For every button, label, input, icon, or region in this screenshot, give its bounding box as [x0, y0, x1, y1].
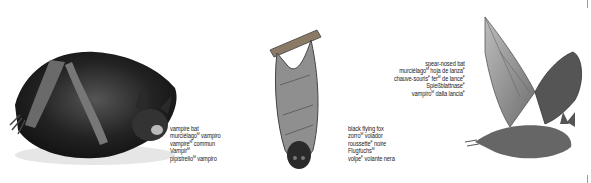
caption-line-es: murciélagoM vampiro [170, 132, 221, 139]
flying-fox-illustration [255, 25, 345, 180]
caption-line-de: SpießblattnaseF [394, 82, 465, 89]
caption-line-en: black flying fox [348, 125, 395, 132]
caption-line-es: murciélagoM hoja de lanzaF [394, 67, 465, 74]
crop-mark-bottom [587, 175, 588, 183]
caption-line-it: pipistrelloM vampiro [170, 155, 221, 162]
crop-mark-top [587, 0, 588, 8]
caption-line-it: vampiroM dalla lanciaF [394, 90, 465, 97]
spear-nosed-bat-caption: spear-nosed bat murciélagoM hoja de lanz… [394, 60, 465, 97]
caption-line-de: VampirM [170, 147, 221, 154]
caption-line-es: zorroM volador [348, 132, 395, 139]
vampire-bat-illustration [0, 30, 190, 180]
vampire-bat-caption: vampire bat murciélagoM vampiro vampireM… [170, 125, 221, 162]
caption-line-fr: roussetteF noire [348, 140, 395, 147]
caption-line-fr: vampireM commun [170, 140, 221, 147]
caption-line-en: vampire bat [170, 125, 221, 132]
flying-fox-caption: black flying fox zorroM volador roussett… [348, 125, 395, 162]
caption-line-fr: chauve-sourisF ferM de lanceF [394, 75, 465, 82]
spear-nosed-bat-illustration [465, 12, 590, 162]
caption-line-en: spear-nosed bat [394, 60, 465, 67]
caption-line-de: FlugfuchsM [348, 147, 395, 154]
caption-line-it: volpeF volante nera [348, 155, 395, 162]
